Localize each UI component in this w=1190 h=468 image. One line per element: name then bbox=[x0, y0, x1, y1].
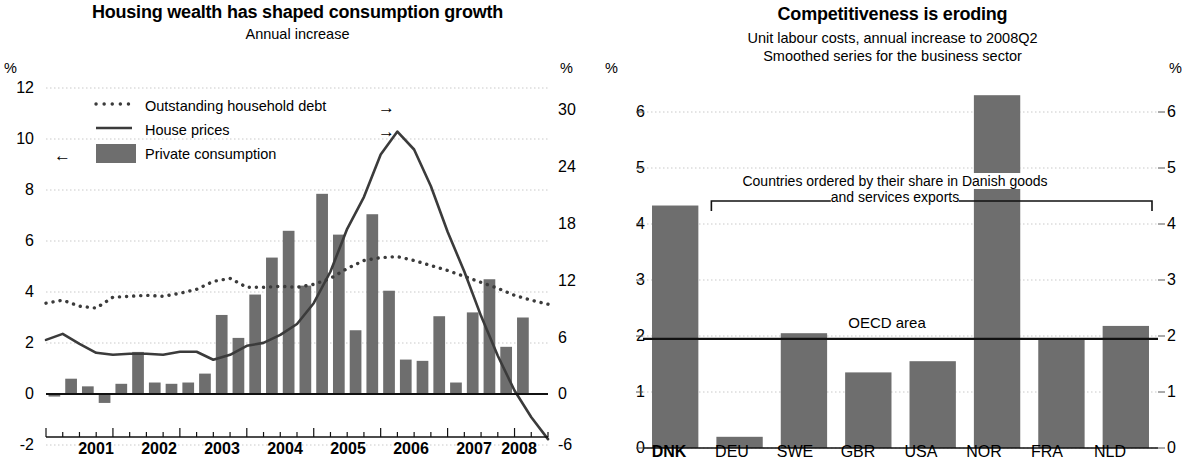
right-xtick-swe: SWE bbox=[777, 443, 813, 461]
left-bar bbox=[400, 360, 412, 394]
left-bar bbox=[182, 383, 194, 394]
right-bar bbox=[652, 206, 698, 448]
right-bar bbox=[910, 361, 956, 448]
right-xtick-dnk: DNK bbox=[652, 443, 687, 461]
left-bar bbox=[433, 316, 445, 394]
right-annotation-line2: and services exports bbox=[831, 189, 959, 205]
left-bar bbox=[233, 338, 245, 394]
left-bar bbox=[300, 286, 312, 394]
left-line-household-debt bbox=[46, 257, 548, 309]
left-bar bbox=[350, 330, 362, 394]
left-xtick-2002: 2002 bbox=[141, 440, 177, 458]
left-bar bbox=[266, 258, 278, 394]
left-bar bbox=[366, 214, 378, 394]
left-xtick-2003: 2003 bbox=[204, 440, 240, 458]
right-xtick-nor: NOR bbox=[966, 443, 1002, 461]
right-xtick-gbr: GBR bbox=[841, 443, 876, 461]
left-xtick-2008: 2008 bbox=[501, 440, 537, 458]
right-bar bbox=[781, 333, 827, 448]
left-bar bbox=[450, 383, 462, 394]
left-bar bbox=[82, 386, 94, 394]
left-bar bbox=[132, 352, 144, 394]
legend-label-houseprices: House prices bbox=[145, 122, 230, 138]
left-bar bbox=[517, 318, 529, 395]
right-bar bbox=[974, 95, 1020, 448]
right-xtick-fra: FRA bbox=[1031, 443, 1063, 461]
left-bar bbox=[99, 394, 111, 403]
legend-arrow-consumption-left: ← bbox=[54, 146, 71, 166]
legend-arrow-houseprices-right: → bbox=[378, 122, 395, 142]
right-bar bbox=[1103, 326, 1149, 448]
figure-pair: Housing wealth has shaped consumption gr… bbox=[0, 0, 1190, 468]
right-xtick-deu: DEU bbox=[715, 443, 749, 461]
chart-housing-wealth: Housing wealth has shaped consumption gr… bbox=[0, 0, 595, 468]
left-bar bbox=[283, 231, 295, 394]
left-xtick-2006: 2006 bbox=[393, 440, 429, 458]
legend-arrow-debt-right: → bbox=[378, 98, 395, 118]
right-oecd-label: OECD area bbox=[848, 314, 926, 331]
left-bar bbox=[383, 291, 395, 394]
left-bar bbox=[149, 383, 161, 394]
right-bar bbox=[845, 372, 891, 448]
right-bar bbox=[1038, 339, 1084, 448]
left-bar bbox=[65, 379, 77, 394]
right-xtick-nld: NLD bbox=[1094, 443, 1126, 461]
right-xtick-usa: USA bbox=[905, 443, 938, 461]
right-plot-area bbox=[595, 0, 1190, 468]
left-xtick-2004: 2004 bbox=[267, 440, 303, 458]
legend-label-consumption: Private consumption bbox=[145, 146, 276, 162]
left-plot-area bbox=[0, 0, 595, 468]
left-xtick-2001: 2001 bbox=[78, 440, 114, 458]
left-bar bbox=[417, 361, 429, 394]
left-bar bbox=[199, 374, 211, 394]
left-bar bbox=[115, 384, 127, 394]
left-bar bbox=[166, 384, 178, 394]
left-xtick-2005: 2005 bbox=[330, 440, 366, 458]
left-bar bbox=[467, 312, 479, 394]
right-annotation-line1: Countries ordered by their share in Dani… bbox=[742, 173, 1047, 189]
left-bar bbox=[216, 315, 228, 394]
chart-competitiveness: Competitiveness is eroding Unit labour c… bbox=[595, 0, 1190, 468]
legend-label-debt: Outstanding household debt bbox=[145, 98, 326, 114]
left-xtick-2007: 2007 bbox=[456, 440, 492, 458]
